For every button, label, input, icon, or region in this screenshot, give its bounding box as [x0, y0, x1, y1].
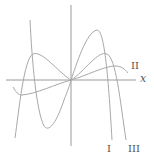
curve-label-I: I [107, 144, 111, 154]
curve-label-III: III [128, 144, 140, 154]
curve-label-II: II [131, 61, 139, 71]
function-graph [0, 0, 154, 165]
x-axis-label: x [140, 73, 146, 84]
